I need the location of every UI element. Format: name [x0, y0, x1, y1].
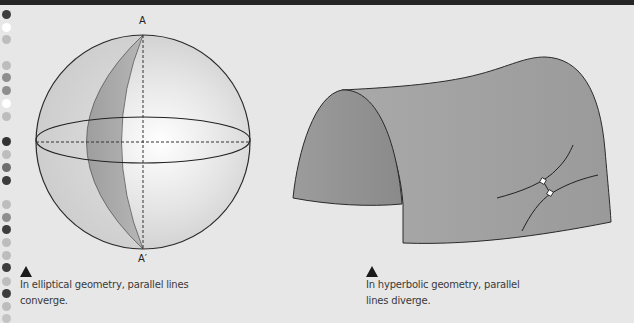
hyperbolic-caption-line1: In hyperbolic geometry, parallel [366, 277, 626, 293]
hyperbolic-caption: In hyperbolic geometry, parallel lines d… [366, 277, 626, 309]
hyperbolic-caption-line2: lines diverge. [366, 293, 626, 309]
point-a-label: A [139, 15, 146, 26]
elliptical-caption: In elliptical geometry, parallel lines c… [20, 277, 280, 309]
hyperbolic-surface-diagram [293, 57, 611, 243]
elliptical-caption-line2: converge. [20, 293, 280, 309]
triangle-bullet-icon [20, 266, 32, 277]
point-a-prime-label: A′ [138, 253, 147, 264]
elliptical-caption-line1: In elliptical geometry, parallel lines [20, 277, 280, 293]
triangle-bullet-icon [366, 266, 378, 277]
elliptical-sphere-diagram [0, 0, 634, 323]
